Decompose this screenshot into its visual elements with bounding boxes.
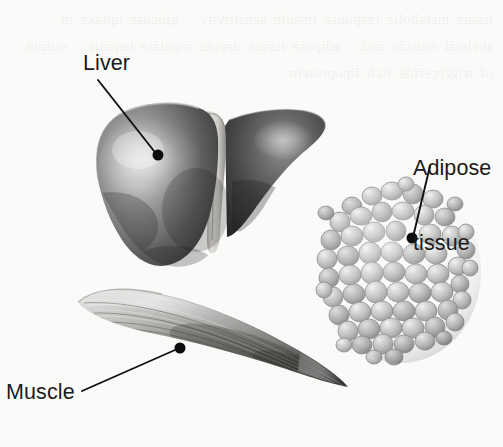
muscle-leader-dot: [175, 343, 186, 354]
tissue-figure: tissue metabolic response insulin sensit…: [0, 0, 503, 447]
label-muscle: Muscle: [6, 380, 75, 405]
label-liver: Liver: [83, 51, 130, 76]
label-adipose-line2: tissue: [413, 231, 491, 256]
muscle-leader-line: [82, 350, 175, 391]
label-adipose-tissue: Adipose tissue: [413, 106, 491, 306]
liver-left-lobe: [66, 103, 230, 278]
liver-leader-dot: [153, 150, 164, 161]
muscle-illustration: [78, 289, 352, 402]
liver-illustration: [66, 103, 325, 278]
label-adipose-line1: Adipose: [413, 156, 491, 181]
